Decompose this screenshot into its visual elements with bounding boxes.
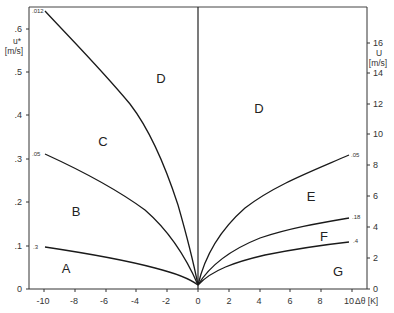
svg-text:.05: .05 (32, 151, 41, 157)
curve-labels: .012 .05 .3 .05 .18 .4 (32, 8, 361, 250)
right-y-tick-labels: 0 2 4 6 8 10 12 14 16 (373, 38, 383, 294)
region-f: F (320, 229, 328, 244)
x-axis-label: Δθ [K] (355, 296, 378, 306)
svg-text:-6: -6 (100, 296, 108, 306)
curve-right-4 (198, 242, 349, 285)
region-b: B (72, 204, 81, 219)
svg-text:4: 4 (373, 222, 378, 232)
svg-text:.6: .6 (14, 24, 22, 34)
region-e: E (307, 189, 316, 204)
svg-text:2: 2 (373, 253, 378, 263)
svg-text:-2: -2 (162, 296, 170, 306)
svg-text:4: 4 (256, 296, 261, 306)
right-y-axis-unit: [m/s] (369, 58, 387, 68)
region-g: G (333, 264, 343, 279)
svg-text:6: 6 (373, 191, 378, 201)
svg-text:.1: .1 (14, 241, 22, 251)
right-y-axis-symbol: U (376, 48, 382, 58)
svg-text:8: 8 (317, 296, 322, 306)
svg-text:.012: .012 (32, 8, 44, 14)
svg-text:2: 2 (226, 296, 231, 306)
region-c: C (98, 134, 107, 149)
svg-text:14: 14 (373, 68, 383, 78)
svg-text:-10: -10 (36, 296, 49, 306)
svg-text:12: 12 (373, 99, 383, 109)
svg-text:0: 0 (373, 284, 378, 294)
svg-text:-4: -4 (131, 296, 139, 306)
svg-text:0: 0 (17, 284, 22, 294)
svg-text:-8: -8 (70, 296, 78, 306)
svg-text:.2: .2 (14, 197, 22, 207)
svg-text:.4: .4 (353, 238, 359, 244)
svg-text:0: 0 (195, 296, 200, 306)
svg-text:.3: .3 (14, 154, 22, 164)
svg-text:.4: .4 (14, 110, 22, 120)
svg-text:10: 10 (344, 296, 354, 306)
left-y-axis-symbol: u* (13, 36, 22, 46)
x-tick-labels: -10 -8 -6 -4 -2 0 2 4 6 8 10 (36, 296, 354, 306)
svg-text:.18: .18 (352, 214, 361, 220)
region-d-right: D (254, 101, 263, 116)
svg-text:.5: .5 (14, 67, 22, 77)
stability-chart: -10 -8 -6 -4 -2 0 2 4 6 8 10 Δθ [K] 0 .1… (0, 0, 394, 313)
svg-text:16: 16 (373, 38, 383, 48)
svg-text:8: 8 (373, 160, 378, 170)
region-d-left: D (156, 71, 165, 86)
svg-text:10: 10 (373, 129, 383, 139)
svg-text:6: 6 (287, 296, 292, 306)
region-a: A (62, 261, 71, 276)
curve-right-05 (198, 155, 349, 285)
left-y-axis-unit: [m/s] (5, 46, 23, 56)
left-y-tick-labels: 0 .1 .2 .3 .4 .5 .6 (14, 24, 22, 294)
svg-text:.05: .05 (351, 152, 360, 158)
svg-text:.3: .3 (33, 244, 39, 250)
region-labels: D C B A D E F G (62, 71, 343, 279)
